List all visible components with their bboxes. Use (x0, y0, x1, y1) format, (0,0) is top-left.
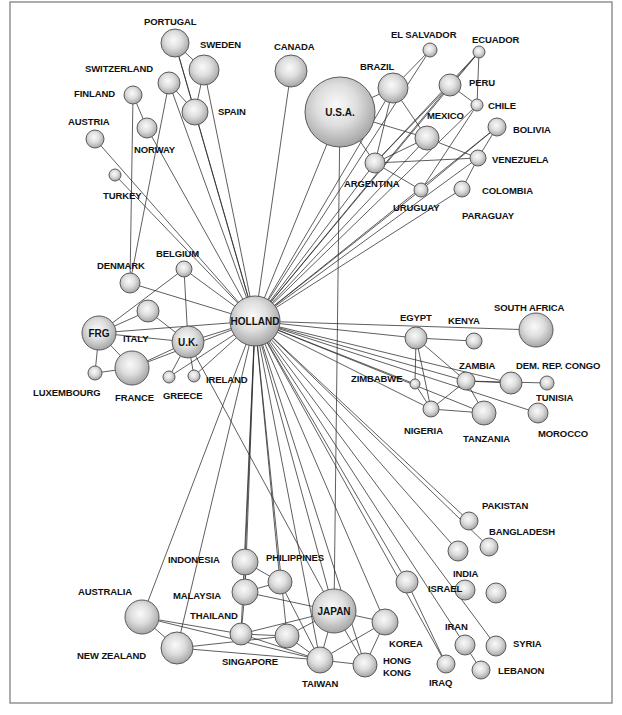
label-luxembourg: LUXEMBOURG (33, 387, 101, 398)
node-ecuador (473, 46, 485, 58)
edge-holland-norway (147, 128, 255, 321)
label-canada: CANADA (274, 41, 315, 52)
trade-network-diagram: HOLLANDU.S.A.JAPANFRGU.K.PORTUGALSWEDENS… (0, 0, 622, 715)
node-belgium (176, 261, 192, 277)
node-finland (124, 86, 142, 104)
label-chile: CHILE (488, 100, 516, 111)
node-bangladesh (480, 538, 498, 556)
label-uruguay: URUGUAY (393, 202, 440, 213)
label-portugal: PORTUGAL (144, 16, 197, 27)
label-australia: AUSTRALIA (78, 586, 132, 597)
node-egypt (405, 327, 427, 349)
edge-holland-mexico (255, 138, 427, 321)
node-israel (396, 571, 418, 593)
label-zimbabwe: ZIMBABWE (351, 373, 402, 384)
label-paraguay: PARAGUAY (462, 210, 515, 221)
label-philippines: PHILIPPINES (266, 552, 324, 563)
label-bolivia: BOLIVIA (513, 124, 551, 135)
label-usa: U.S.A. (325, 107, 355, 118)
node-switzerland (158, 72, 180, 94)
node-brazil (378, 73, 408, 103)
label-finland: FINLAND (74, 88, 115, 99)
node-spain (182, 99, 208, 125)
label-malaysia: MALAYSIA (173, 590, 221, 601)
label-iraq: IRAQ (429, 677, 452, 688)
label-morocco: MOROCCO (538, 428, 588, 439)
label-iran: IRAN (445, 621, 468, 632)
node-syria-node (486, 636, 506, 656)
node-el-salvador (423, 43, 437, 57)
label-switzerland: SWITZERLAND (85, 63, 153, 74)
node-iran-node (455, 635, 475, 655)
label-indonesia-node: INDONESIA (168, 554, 220, 565)
label-lebanon: LEBANON (498, 665, 545, 676)
label-italy: ITALY (123, 333, 149, 344)
label-mexico: MEXICO (427, 110, 464, 121)
node-portugal (161, 29, 189, 57)
label-thailand: THAILAND (190, 610, 238, 621)
label-india: INDIA (453, 568, 479, 579)
node-indonesia-node (232, 549, 258, 575)
label-egypt: EGYPT (400, 312, 432, 323)
node-ireland (188, 370, 200, 382)
label-argentina: ARGENTINA (344, 178, 400, 189)
label-japan: JAPAN (317, 606, 350, 617)
edge-israel-iraq (407, 582, 446, 664)
label-zambia: ZAMBIA (459, 360, 496, 371)
edge-holland-nigeria (255, 321, 431, 409)
node-bolivia (488, 118, 506, 136)
edge-finland-denmark (130, 95, 133, 283)
edge-holland-chile (255, 105, 477, 321)
label-bangladesh: BANGLADESH (489, 526, 555, 537)
label-holland: HOLLAND (231, 316, 280, 327)
edge-holland-india (255, 321, 458, 551)
label-korea: KOREA (389, 638, 423, 649)
node-syria (486, 583, 506, 603)
node-uruguay (414, 183, 428, 197)
label-south-africa: SOUTH AFRICA (494, 302, 564, 313)
label-uk: U.K. (178, 337, 198, 348)
node-austria (86, 130, 104, 148)
node-india (448, 541, 468, 561)
label-turkey: TURKEY (103, 190, 142, 201)
label-hong-kong-line2: KONG (383, 667, 411, 678)
label-el-salvador: EL SALVADOR (391, 29, 457, 40)
label-colombia: COLOMBIA (482, 185, 533, 196)
node-sweden (189, 55, 219, 85)
label-ecuador: ECUADOR (472, 34, 520, 45)
edge-usa-japan (334, 112, 340, 611)
label-frg: FRG (88, 328, 109, 339)
label-singapore: SINGAPORE (222, 656, 278, 667)
label-france: FRANCE (115, 392, 154, 403)
node-thailand (230, 623, 252, 645)
node-zambia (457, 372, 475, 390)
node-luxembourg (88, 366, 102, 380)
label-syria: SYRIA (513, 638, 542, 649)
node-south-africa (519, 313, 553, 347)
label-hong-kong: HONG (383, 655, 411, 666)
node-peru-node (439, 74, 461, 96)
label-spain: SPAIN (218, 106, 246, 117)
node-venezuela (470, 150, 486, 166)
label-taiwan: TAIWAN (302, 678, 338, 689)
node-colombia (454, 181, 470, 197)
node-lebanon (472, 661, 490, 679)
edge-holland-iran_node (255, 321, 465, 645)
node-philippines (268, 570, 292, 594)
label-peru-node: PERU (469, 77, 495, 88)
node-italy (137, 300, 159, 322)
label-ireland: IRELAND (206, 374, 248, 385)
edge-holland-japan (255, 321, 334, 611)
node-taiwan (307, 647, 333, 673)
node-iraq (437, 655, 455, 673)
label-dem-rep-congo: DEM. REP. CONGO (516, 360, 600, 371)
label-venezuela: VENEZUELA (492, 154, 549, 165)
node-morocco (528, 403, 548, 423)
edge-holland-austria (95, 139, 255, 321)
node-zambia-east (500, 372, 522, 394)
label-tunisia: TUNISIA (536, 392, 574, 403)
node-chile (471, 99, 483, 111)
node-zimbabwe (410, 379, 420, 389)
node-new-zealand (161, 632, 193, 664)
node-nigeria (423, 401, 439, 417)
